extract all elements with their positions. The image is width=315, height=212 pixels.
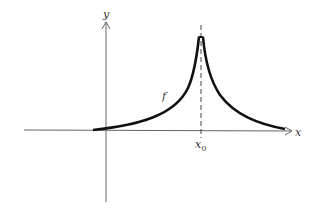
- curve-f-right-branch: [203, 37, 285, 129]
- curve-f-label: f: [161, 90, 168, 103]
- x-axis-label: x: [295, 126, 302, 139]
- x-axis: [24, 130, 292, 131]
- x0-label-subscript: 0: [201, 144, 206, 153]
- function-diagram: y x f x0: [0, 0, 315, 212]
- curve-f-left-branch: [93, 37, 199, 130]
- y-axis-label: y: [102, 8, 110, 21]
- x0-label: x0: [195, 138, 206, 153]
